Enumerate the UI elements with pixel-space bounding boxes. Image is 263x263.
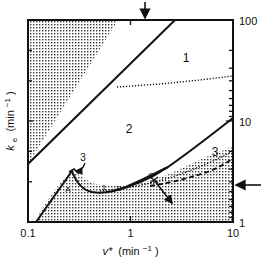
region-label-3: 3 xyxy=(212,145,219,159)
curve-upper-dotted xyxy=(117,76,233,87)
log-log-phase-diagram: 1 2 3 A B C 1 3 0.1 1 10 100 10 1 v* (mi… xyxy=(0,0,263,263)
y-axis-unit-exp: −1 xyxy=(3,97,12,107)
region-label-2: 2 xyxy=(126,122,133,136)
shaded-region-bottom-wedge xyxy=(36,171,90,222)
annotation-leader-3 xyxy=(76,163,85,171)
xtick-label-low: 0.1 xyxy=(20,227,35,239)
shaded-region-upper-left xyxy=(28,20,118,164)
svg-text:v* (min −1: v* (min −1 ) xyxy=(102,241,158,257)
y-axis-unit-open: (min xyxy=(4,110,16,131)
x-axis-title: v* (min −1 ) xyxy=(102,241,158,257)
xtick-label-high: 10 xyxy=(227,227,239,239)
y-axis-subscript: e xyxy=(10,137,19,142)
shaded-regions xyxy=(28,20,233,222)
point-label-a: A xyxy=(65,185,71,194)
x-axis-unit-open: (min xyxy=(118,245,139,257)
x-axis-unit-close: ) xyxy=(155,245,159,257)
ytick-label-mid: 10 xyxy=(239,116,251,128)
point-label-b: B xyxy=(116,184,121,193)
annotation-label-3: 3 xyxy=(80,152,86,163)
x-axis-symbol: v* xyxy=(102,245,113,257)
y-axis-title: k e (min −1 ) xyxy=(0,91,19,150)
svg-text:k e (min: k e (min −1 ) xyxy=(0,91,19,150)
y-axis-unit-close: ) xyxy=(4,91,16,95)
ytick-label-low: 1 xyxy=(239,217,245,229)
figure-root: 1 2 3 A B C 1 3 0.1 1 10 100 10 1 v* (mi… xyxy=(0,0,263,263)
xtick-label-mid: 1 xyxy=(127,227,133,239)
y-axis-symbol: k xyxy=(4,145,16,151)
ytick-label-high: 100 xyxy=(239,15,257,27)
annotation-label-1: 1 xyxy=(102,183,107,192)
x-axis-unit-exp: −1 xyxy=(143,244,153,253)
region-label-1: 1 xyxy=(183,51,190,65)
